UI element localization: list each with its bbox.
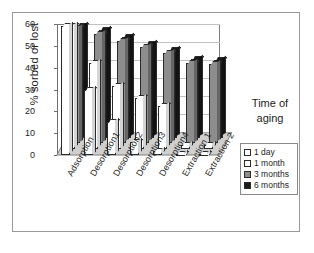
- bar-side-face: [148, 43, 152, 142]
- bar-side-face: [199, 54, 203, 135]
- bar-side-face: [153, 40, 157, 136]
- y-tick-label: 0: [30, 150, 38, 160]
- gridline: [69, 24, 220, 25]
- legend-swatch: [244, 182, 251, 189]
- legend-item-label: 1 day: [254, 147, 275, 158]
- y-tick-mark: [54, 90, 57, 91]
- y-tick-mark: [54, 68, 57, 69]
- bar-side-face: [143, 94, 147, 148]
- legend-title-line-2: aging: [236, 111, 304, 126]
- bar-side-face: [74, 22, 78, 148]
- legend-item: 3 months: [244, 169, 294, 180]
- legend-item: 1 day: [244, 147, 294, 158]
- legend-item-label: 3 months: [254, 169, 289, 180]
- y-tick-mark: [54, 111, 57, 112]
- bar-side-face: [120, 81, 124, 147]
- legend-swatch: [244, 149, 251, 156]
- bar-side-face: [171, 49, 175, 142]
- legend-item-label: 6 months: [254, 180, 289, 191]
- legend-item: 1 month: [244, 158, 294, 169]
- bar-side-face: [217, 60, 221, 141]
- bar-side-face: [222, 56, 226, 136]
- chart-figure: % sorbed or lost 0102030405060 Adsorptio…: [0, 0, 314, 253]
- bar-side-face: [102, 29, 106, 141]
- gridline: [69, 42, 220, 43]
- bar-side-face: [194, 58, 198, 141]
- legend-title: Time of aging: [236, 96, 304, 126]
- legend-swatch: [244, 171, 251, 178]
- y-tick-label: 60: [25, 19, 38, 29]
- bar: [61, 26, 70, 155]
- bar-side-face: [130, 33, 134, 136]
- y-tick-label: 30: [25, 85, 38, 95]
- bar-side-face: [79, 24, 83, 142]
- bar-side-face: [69, 22, 73, 153]
- y-tick-label: 10: [25, 128, 38, 138]
- bar-side-face: [97, 59, 101, 148]
- legend-title-line-1: Time of: [236, 96, 304, 111]
- bar-side-face: [125, 37, 129, 141]
- y-tick-label: 40: [25, 63, 38, 73]
- y-tick-mark: [54, 24, 57, 25]
- bar-side-face: [176, 45, 180, 135]
- bar-side-face: [166, 102, 170, 147]
- legend-swatch: [244, 160, 251, 167]
- legend-item: 6 months: [244, 180, 294, 191]
- y-tick-mark: [54, 46, 57, 47]
- bar: [209, 64, 218, 143]
- plot-area: 0102030405060 AdsorptionDesorption1Desor…: [42, 24, 232, 169]
- legend-box: 1 day1 month3 months6 months: [240, 143, 298, 195]
- bar: [186, 63, 195, 144]
- y-tick-label: 20: [25, 106, 38, 116]
- legend-item-label: 1 month: [254, 158, 285, 169]
- y-tick-label: 50: [25, 41, 38, 51]
